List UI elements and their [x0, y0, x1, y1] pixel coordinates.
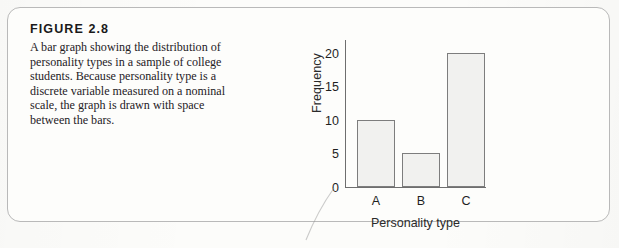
x-tick-label-b: B	[417, 194, 425, 208]
y-tick-label: 20	[325, 47, 339, 61]
y-tick-label: 15	[325, 80, 339, 94]
figure-box: FIGURE 2.8 A bar graph showing the distr…	[7, 7, 610, 222]
figure-heading: FIGURE 2.8	[30, 22, 260, 36]
x-tick-label-c: C	[461, 194, 470, 208]
bar-chart: Frequency 0 5 10 15 20 A B C Personality…	[300, 30, 530, 220]
y-tick-label: 0	[332, 181, 339, 195]
x-tick-label-a: A	[372, 194, 380, 208]
x-axis-title: Personality type	[345, 216, 486, 230]
y-tick-label: 5	[332, 147, 339, 161]
y-tick-label: 10	[325, 114, 339, 128]
y-axis-title: Frequency	[310, 35, 324, 131]
bar-c	[447, 53, 485, 188]
plot-area: 0 5 10 15 20 A B C	[345, 40, 485, 188]
figure-caption: A bar graph showing the distribution of …	[30, 40, 233, 128]
bar-b	[402, 153, 440, 187]
caption-block: FIGURE 2.8 A bar graph showing the distr…	[30, 22, 260, 128]
x-axis-line	[345, 187, 486, 188]
y-axis-line	[345, 40, 346, 188]
bar-a	[357, 120, 395, 187]
